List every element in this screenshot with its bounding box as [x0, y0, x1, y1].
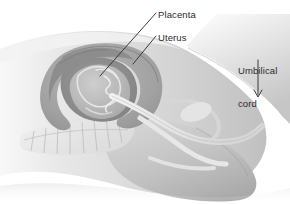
label-umbilical-cord-line2: cord: [238, 98, 277, 109]
label-uterus: Uterus: [158, 32, 187, 43]
anatomical-illustration: Placenta Uterus Umbilical cord: [0, 0, 290, 204]
label-umbilical-cord: Umbilical cord: [238, 43, 277, 131]
label-placenta: Placenta: [158, 9, 196, 20]
label-umbilical-cord-line1: Umbilical: [238, 65, 277, 76]
